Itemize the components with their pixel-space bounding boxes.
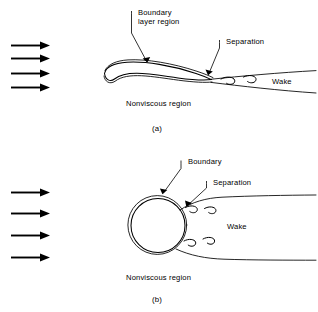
cylinder-body	[131, 199, 185, 253]
flow-arrows-panel-b	[11, 189, 50, 262]
label-boundary-layer-line1: Boundary	[138, 8, 172, 17]
leader-line-separation-a	[209, 43, 220, 75]
flow-arrows-panel-a	[11, 42, 50, 92]
panel-b: Boundary Separation Wake Nonviscous regi…	[11, 157, 316, 304]
caption-panel-b: (b)	[152, 295, 162, 304]
wake-swirl	[205, 207, 216, 214]
flow-arrow	[11, 210, 50, 218]
leader-line-boundary-b	[163, 163, 181, 193]
label-boundary-layer-line2: layer region	[138, 17, 179, 26]
caption-panel-a: (a)	[152, 124, 162, 133]
panel-a: Boundary layer region Separation Wake No…	[11, 8, 316, 134]
label-wake-a: Wake	[272, 77, 292, 86]
flow-arrow	[11, 254, 50, 262]
flow-arrow	[11, 189, 50, 197]
label-separation-a: Separation	[226, 37, 264, 46]
flow-arrow	[11, 232, 50, 240]
diagram-canvas: Boundary layer region Separation Wake No…	[0, 0, 318, 312]
wake-swirl	[244, 75, 257, 82]
label-nonviscous-a: Nonviscous region	[126, 99, 191, 108]
wake-swirl	[203, 237, 215, 244]
wake-boundary-upper	[212, 71, 317, 80]
figure-root: Boundary layer region Separation Wake No…	[0, 0, 318, 312]
wake-swirl	[221, 77, 235, 84]
flow-arrow	[11, 55, 50, 63]
label-nonviscous-b: Nonviscous region	[126, 273, 191, 282]
wake-swirl	[186, 206, 198, 213]
flow-arrow	[11, 42, 50, 50]
wake-boundary-upper-b	[180, 195, 316, 210]
flow-arrow	[11, 84, 50, 92]
wake-swirl	[184, 239, 196, 246]
label-wake-b: Wake	[227, 222, 247, 231]
label-boundary-b: Boundary	[188, 157, 222, 166]
label-separation-b: Separation	[213, 178, 251, 187]
flow-arrow	[11, 70, 50, 78]
wake-boundary-lower-b	[176, 249, 316, 260]
